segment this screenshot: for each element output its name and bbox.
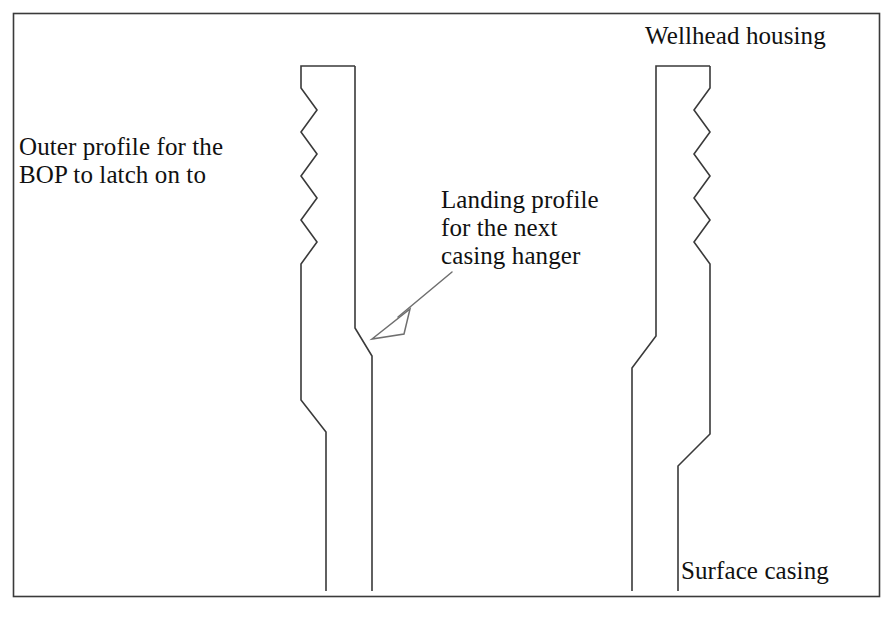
label-wellhead-housing: Wellhead housing [645,22,826,50]
label-outer-profile: Outer profile for the BOP to latch on to [19,133,223,189]
leader-line [398,272,452,317]
wellhead-housing-left-wall-inner [355,66,372,591]
wellhead-diagram: Outer profile for the BOP to latch on to… [0,0,893,623]
wellhead-housing-left-wall-outer [301,66,355,591]
label-surface-casing: Surface casing [681,557,829,585]
wellhead-housing-right-wall-inner [632,66,710,591]
leader-arrowhead-icon [372,309,410,339]
figure-border [14,14,880,597]
diagram-canvas [0,0,893,623]
wellhead-housing-right-wall-outer [678,66,710,591]
label-landing-profile: Landing profile for the next casing hang… [441,186,599,270]
